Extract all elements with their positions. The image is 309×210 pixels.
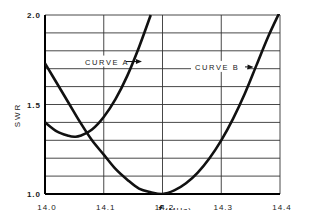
annotation-label: CURVE A [85,58,129,67]
annotation-label: CURVE B [195,63,239,72]
annotations: CURVE ACURVE B [81,56,254,72]
y-axis-label: SWR [13,103,22,128]
y-tick-label: 1.5 [27,101,41,110]
x-tick-label: 14.3 [213,203,233,210]
y-tick-label: 1.0 [27,190,41,199]
tick-labels: 14.014.114.214.314.41.01.52.0 [27,11,292,210]
swr-chart: 14.014.114.214.314.41.01.52.0 CURVE ACUR… [0,0,309,210]
chart-canvas: 14.014.114.214.314.41.01.52.0 CURVE ACUR… [0,0,309,210]
y-tick-label: 2.0 [27,11,41,20]
x-tick-label: 14.4 [272,203,292,210]
arrow-head-icon [136,59,142,64]
x-tick-label: 14.1 [96,203,116,210]
x-axis-label-unit: (MHz) [162,206,192,210]
grid-lines [45,15,280,194]
x-tick-label: 14.0 [37,203,57,210]
